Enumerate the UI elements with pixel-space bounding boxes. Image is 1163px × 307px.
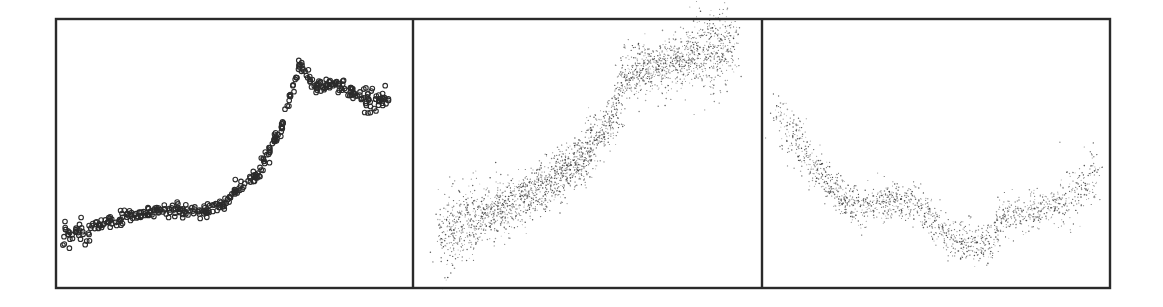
data-point — [497, 192, 498, 193]
data-point — [563, 173, 564, 174]
data-point — [902, 216, 903, 217]
data-point — [697, 49, 698, 50]
data-point — [515, 204, 516, 205]
data-point — [894, 201, 896, 203]
data-point — [494, 218, 495, 219]
data-point — [661, 76, 662, 77]
data-point — [953, 238, 954, 239]
data-point — [792, 126, 793, 127]
data-point — [678, 48, 679, 49]
data-point — [840, 205, 841, 206]
data-point — [439, 219, 440, 220]
data-point — [843, 197, 844, 198]
data-point — [1078, 202, 1079, 203]
data-point — [1004, 192, 1005, 193]
data-point — [844, 209, 845, 210]
data-point — [494, 223, 495, 224]
data-point — [1060, 185, 1061, 186]
data-point — [694, 71, 695, 72]
data-point — [559, 212, 560, 213]
data-point — [650, 75, 651, 76]
data-point — [532, 192, 533, 193]
data-point — [622, 72, 623, 73]
data-point — [791, 143, 792, 144]
data-point — [443, 223, 444, 224]
data-point — [482, 218, 483, 219]
data-point — [628, 59, 629, 60]
data-point — [825, 196, 826, 197]
data-point — [555, 162, 556, 163]
data-point — [1054, 223, 1055, 224]
data-point — [710, 46, 711, 47]
data-point — [947, 247, 948, 248]
data-point — [887, 206, 888, 207]
data-point — [444, 277, 446, 279]
data-point — [892, 181, 893, 182]
data-point — [717, 61, 718, 62]
data-point — [913, 181, 914, 182]
data-point — [711, 66, 712, 67]
data-point — [1078, 177, 1079, 178]
data-point — [639, 63, 640, 64]
data-point — [512, 204, 514, 206]
data-point — [664, 105, 666, 107]
data-point — [501, 217, 502, 218]
data-point — [708, 58, 709, 59]
data-point — [1019, 213, 1020, 214]
data-point — [466, 220, 467, 221]
data-point — [887, 214, 888, 215]
data-point — [504, 206, 505, 207]
data-point — [946, 245, 948, 247]
data-point — [650, 77, 652, 79]
data-point — [666, 77, 667, 78]
data-point — [454, 219, 455, 220]
data-point — [860, 204, 861, 205]
data-point — [897, 198, 898, 199]
data-point — [980, 249, 981, 250]
data-point — [459, 254, 460, 255]
data-point — [510, 191, 511, 192]
data-point — [490, 209, 492, 211]
data-point — [954, 255, 955, 256]
data-point — [638, 82, 639, 83]
data-point — [867, 202, 868, 203]
data-point — [977, 254, 978, 255]
data-point — [1050, 204, 1051, 205]
data-point — [676, 48, 677, 49]
data-point — [943, 231, 944, 232]
data-point — [473, 236, 474, 237]
data-point — [541, 172, 542, 173]
data-point — [621, 73, 622, 74]
data-point — [899, 210, 900, 211]
data-point — [734, 49, 735, 50]
data-point — [1007, 200, 1008, 201]
data-point — [504, 213, 505, 214]
data-point — [544, 209, 545, 210]
data-point — [1045, 216, 1046, 217]
data-point — [475, 228, 476, 229]
data-point — [469, 258, 470, 259]
data-point — [930, 209, 931, 210]
data-point — [518, 212, 519, 213]
data-point — [565, 157, 566, 158]
data-point — [1033, 214, 1034, 215]
data-point — [466, 232, 467, 233]
data-point — [835, 183, 836, 184]
data-point — [473, 249, 474, 250]
data-point — [987, 263, 989, 265]
data-point — [855, 185, 856, 186]
data-point — [534, 181, 535, 182]
data-point — [673, 58, 674, 59]
data-point — [564, 170, 565, 171]
data-point — [732, 62, 733, 63]
data-point — [962, 234, 963, 235]
data-point — [675, 67, 676, 68]
data-point — [473, 200, 474, 201]
data-point — [860, 206, 861, 207]
data-point — [710, 42, 711, 43]
data-point — [548, 191, 549, 192]
data-point — [719, 102, 720, 103]
data-point — [822, 176, 823, 177]
data-point — [854, 200, 855, 201]
data-point — [1077, 183, 1079, 185]
